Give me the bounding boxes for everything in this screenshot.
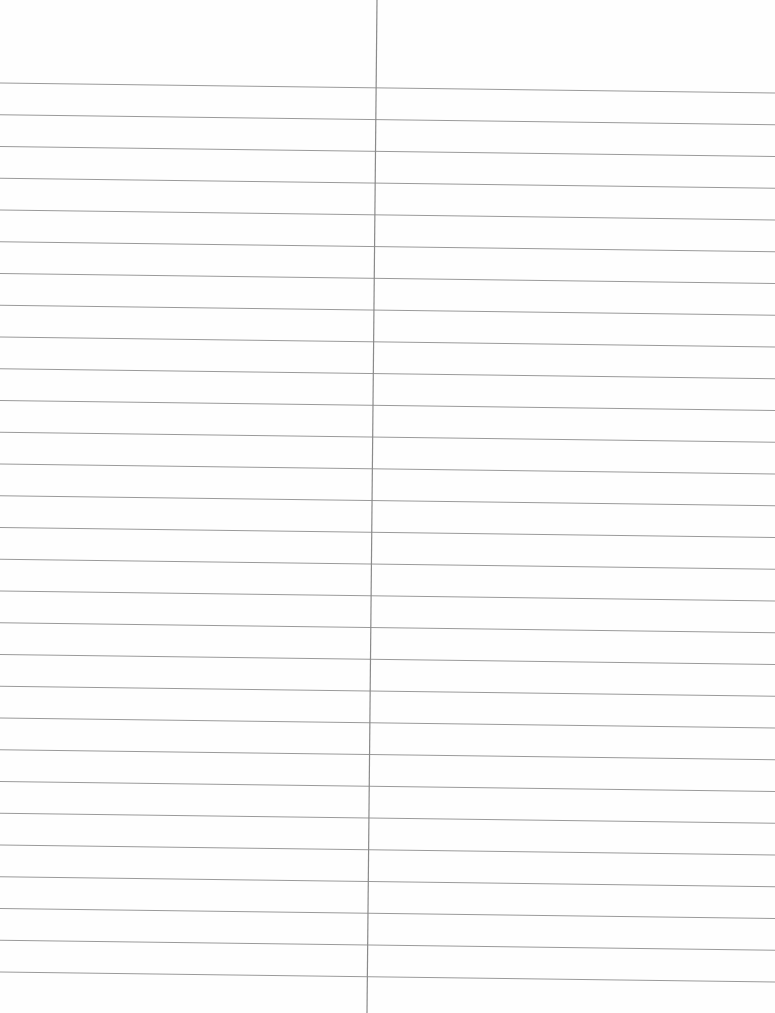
- ruled-line: [0, 909, 775, 919]
- ruled-line: [0, 813, 775, 823]
- ruled-line: [0, 337, 775, 347]
- ruled-line: [0, 83, 775, 93]
- ruled-line: [0, 782, 775, 792]
- ruled-line: [0, 305, 775, 315]
- ruled-line: [0, 432, 775, 442]
- ruled-line: [0, 242, 775, 252]
- ruled-line: [0, 115, 775, 125]
- ruled-line: [0, 718, 775, 728]
- ruled-line: [0, 369, 775, 379]
- ruled-line: [0, 877, 775, 887]
- ruled-line: [0, 623, 775, 633]
- ruled-line: [0, 464, 775, 474]
- ruled-line: [0, 686, 775, 696]
- ruled-line: [0, 274, 775, 284]
- ruled-lines: [0, 0, 775, 1013]
- ruled-line: [0, 972, 775, 982]
- vertical-divider: [367, 0, 377, 1013]
- ruled-line: [0, 210, 775, 220]
- ruled-line: [0, 559, 775, 569]
- ruled-line: [0, 496, 775, 506]
- ruled-line: [0, 750, 775, 760]
- ruled-line: [0, 940, 775, 950]
- ruled-line: [0, 845, 775, 855]
- ruled-line: [0, 591, 775, 601]
- ruled-line: [0, 178, 775, 188]
- ruled-line: [0, 528, 775, 538]
- ruled-line: [0, 147, 775, 157]
- ruled-line: [0, 401, 775, 411]
- ruled-line: [0, 655, 775, 665]
- lined-paper: [0, 0, 775, 1013]
